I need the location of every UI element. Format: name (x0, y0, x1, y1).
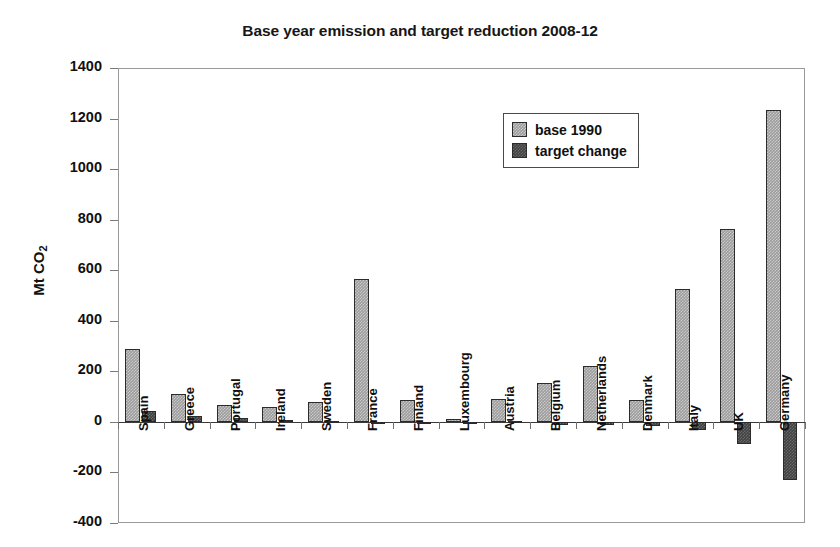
y-axis-title-subscript: 2 (37, 245, 49, 251)
y-axis-tick-mark (110, 270, 118, 271)
y-axis-tick-mark (110, 371, 118, 372)
x-axis-tick-mark (347, 422, 348, 429)
legend-item: target change (512, 140, 627, 161)
y-axis-tick-label: 800 (78, 210, 102, 226)
x-axis-label-germany: Germany (777, 375, 792, 431)
y-axis-tick-mark (110, 422, 118, 423)
y-axis-tick-mark (110, 523, 118, 524)
x-axis-label-ireland: Ireland (273, 388, 288, 431)
x-axis-label-finland: Finland (411, 385, 426, 431)
x-axis-label-france: France (365, 388, 380, 431)
x-axis-tick-mark (805, 422, 806, 429)
x-axis-label-netherlands: Netherlands (594, 356, 609, 431)
bar-chart: Base year emission and target reduction … (0, 0, 840, 547)
y-axis-tick-label: 1400 (70, 58, 102, 74)
plot-area (118, 68, 805, 523)
y-axis-tick-mark (110, 220, 118, 221)
y-axis-tick-label: 600 (78, 260, 102, 276)
y-axis-tick-label: -200 (73, 462, 102, 478)
x-axis-tick-mark (118, 422, 119, 429)
y-axis-title-text: Mt CO (30, 251, 47, 295)
y-axis-title: Mt CO2 (30, 211, 47, 331)
y-axis-tick-label: 200 (78, 361, 102, 377)
x-axis-label-greece: Greece (182, 387, 197, 431)
y-axis-tick-label: 400 (78, 311, 102, 327)
x-axis-tick-mark (668, 422, 669, 429)
x-axis-tick-mark (622, 422, 623, 429)
legend-swatch-icon (512, 122, 527, 137)
x-axis-tick-mark (530, 422, 531, 429)
x-axis-label-sweden: Sweden (319, 382, 334, 431)
x-axis-tick-mark (713, 422, 714, 429)
y-axis-tick-mark (110, 119, 118, 120)
x-axis-label-portugal: Portugal (228, 378, 243, 431)
y-axis-tick-label: 0 (94, 412, 102, 428)
x-axis-label-austria: Austria (502, 386, 517, 431)
x-axis-tick-mark (210, 422, 211, 429)
legend-item-label: base 1990 (535, 122, 602, 138)
x-axis-tick-mark (255, 422, 256, 429)
legend-item: base 1990 (512, 119, 627, 140)
chart-title: Base year emission and target reduction … (0, 22, 840, 40)
x-axis-label-belgium: Belgium (548, 380, 563, 431)
y-axis-tick-mark (110, 321, 118, 322)
bar-base-1990-italy (675, 289, 690, 422)
chart-legend: base 1990target change (503, 113, 639, 168)
x-axis-tick-mark (439, 422, 440, 429)
x-axis-tick-mark (759, 422, 760, 429)
y-axis-tick-label: 1000 (70, 159, 102, 175)
y-axis-tick-label: -400 (73, 513, 102, 529)
x-axis-label-spain: Spain (136, 395, 151, 430)
bar-base-1990-uk (720, 229, 735, 422)
legend-item-label: target change (535, 143, 627, 159)
x-axis-tick-mark (576, 422, 577, 429)
x-axis-tick-mark (484, 422, 485, 429)
x-axis-label-italy: Italy (686, 405, 701, 431)
x-axis-label-denmark: Denmark (640, 375, 655, 431)
x-axis-tick-mark (301, 422, 302, 429)
y-axis-tick-mark (110, 68, 118, 69)
x-axis-tick-mark (164, 422, 165, 429)
x-axis-label-luxembourg: Luxembourg (457, 352, 472, 431)
x-axis-tick-mark (393, 422, 394, 429)
y-axis-tick-label: 1200 (70, 109, 102, 125)
legend-swatch-icon (512, 143, 527, 158)
x-axis-label-uk: UK (731, 412, 746, 431)
y-axis-tick-mark (110, 472, 118, 473)
y-axis-tick-mark (110, 169, 118, 170)
